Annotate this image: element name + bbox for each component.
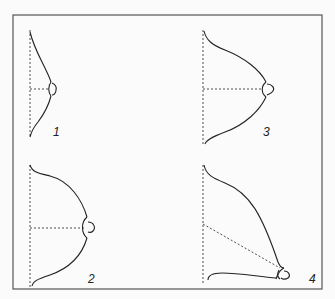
panel-2-label: 2 [88,272,95,286]
diagram-canvas [0,0,335,299]
panel-4-label: 4 [309,272,316,286]
panel-1-label: 1 [53,125,60,139]
frame [13,15,322,289]
panel-2-drawing [30,165,94,287]
panel-1-drawing [30,30,56,138]
panel-4-drawing [203,165,289,283]
panel-3-label: 3 [263,125,270,139]
